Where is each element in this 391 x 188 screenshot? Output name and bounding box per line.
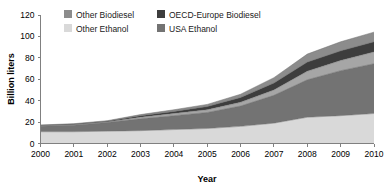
stacked-area-chart: 020406080100120 200020012002200320042005… [0,0,391,188]
x-axis-title: Year [197,174,217,184]
x-tick-label: 2005 [198,149,217,159]
y-tick-label: 0 [30,139,35,149]
y-tick-label: 120 [20,10,34,20]
y-tick-label: 80 [25,53,35,63]
x-tick-label: 2008 [298,149,317,159]
y-tick-label: 60 [25,74,35,84]
legend-label-other-ethanol: Other Ethanol [76,24,129,34]
x-tick-label: 2006 [231,149,250,159]
x-tick-label: 2009 [331,149,350,159]
y-tick-label: 100 [20,31,34,41]
legend-label-usa-ethanol: USA Ethanol [169,24,217,34]
legend-swatch-oecd-europe-biodiesel [157,10,165,18]
x-tick-label: 2004 [164,149,183,159]
x-tick-label: 2010 [365,149,384,159]
x-tick-label: 2007 [264,149,283,159]
legend-swatch-other-ethanol [64,24,72,32]
y-axis-title: Billion liters [6,53,16,105]
y-tick-label: 40 [25,96,35,106]
legend-swatch-usa-ethanol [157,24,165,32]
legend-label-oecd-europe-biodiesel: OECD-Europe Biodiesel [169,10,261,20]
x-tick-label: 2000 [31,149,50,159]
x-tick-label: 2003 [131,149,150,159]
chart-canvas: 020406080100120 200020012002200320042005… [0,0,391,188]
legend-swatch-other-biodiesel [64,10,72,18]
x-tick-label: 2002 [98,149,117,159]
y-tick-label: 20 [25,117,35,127]
legend-label-other-biodiesel: Other Biodiesel [76,10,134,20]
x-tick-label: 2001 [64,149,83,159]
